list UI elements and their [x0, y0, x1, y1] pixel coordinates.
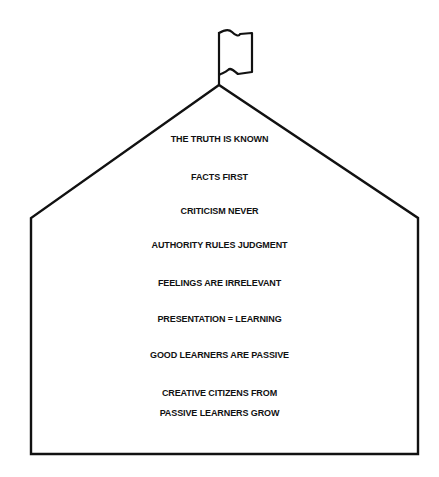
flag-icon	[219, 30, 252, 85]
principle-creative-citizens-line1: CREATIVE CITIZENS FROM	[0, 388, 439, 398]
principle-creative-citizens-line2: PASSIVE LEARNERS GROW	[0, 408, 439, 418]
principle-presentation-learning: PRESENTATION = LEARNING	[0, 314, 439, 324]
principle-truth-is-known: THE TRUTH IS KNOWN	[0, 134, 439, 144]
principle-good-learners-passive: GOOD LEARNERS ARE PASSIVE	[0, 350, 439, 360]
principle-feelings-irrelevant: FEELINGS ARE IRRELEVANT	[0, 278, 439, 288]
principle-facts-first: FACTS FIRST	[0, 172, 439, 182]
principle-authority-rules-judgment: AUTHORITY RULES JUDGMENT	[0, 240, 439, 250]
schoolhouse-outline	[0, 0, 439, 477]
principle-criticism-never: CRITICISM NEVER	[0, 206, 439, 216]
